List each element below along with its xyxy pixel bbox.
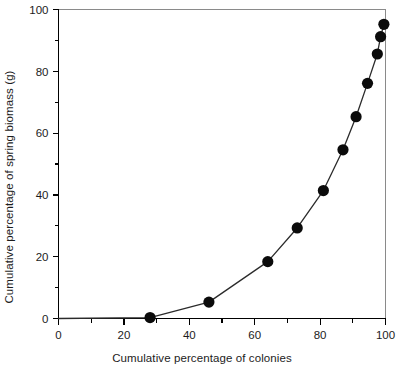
x-tick-label: 80 bbox=[314, 329, 327, 341]
y-tick-label-group: 020406080100 bbox=[29, 4, 48, 325]
data-point-marker bbox=[378, 19, 389, 30]
data-point-marker bbox=[144, 312, 155, 323]
x-tick-marks bbox=[59, 319, 386, 325]
data-point-marker bbox=[292, 222, 303, 233]
data-point-marker bbox=[350, 111, 361, 122]
x-tick-label-group: 020406080100 bbox=[55, 329, 395, 341]
y-tick-marks bbox=[53, 10, 59, 319]
chart-figure: Cumulative percentage of spring biomass … bbox=[0, 0, 404, 374]
data-point-marker bbox=[375, 31, 386, 42]
data-point-marker bbox=[337, 144, 348, 155]
y-tick-label: 80 bbox=[36, 66, 49, 78]
data-series-layer bbox=[59, 19, 390, 323]
x-tick-label: 60 bbox=[248, 329, 261, 341]
data-line bbox=[59, 24, 384, 318]
x-tick-label: 0 bbox=[55, 329, 61, 341]
data-point-marker bbox=[262, 256, 273, 267]
y-tick-label: 60 bbox=[36, 127, 49, 139]
y-tick-label: 40 bbox=[36, 189, 49, 201]
data-point-marker bbox=[318, 185, 329, 196]
y-tick-label: 20 bbox=[36, 251, 49, 263]
y-tick-label: 100 bbox=[29, 4, 48, 16]
data-point-marker bbox=[203, 297, 214, 308]
data-point-marker bbox=[372, 48, 383, 59]
x-tick-label: 100 bbox=[376, 329, 395, 341]
plot-area: 020406080100 020406080100 bbox=[0, 0, 404, 374]
x-tick-label: 20 bbox=[118, 329, 131, 341]
data-point-marker bbox=[362, 78, 373, 89]
y-tick-label: 0 bbox=[42, 313, 48, 325]
x-tick-label: 40 bbox=[183, 329, 196, 341]
